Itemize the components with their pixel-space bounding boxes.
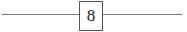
number-node-box: 8: [79, 1, 103, 31]
node-label: 8: [87, 6, 96, 26]
right-connector-line: [103, 14, 182, 15]
left-connector-line: [2, 14, 79, 15]
